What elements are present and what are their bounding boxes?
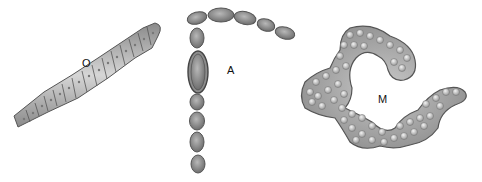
anabaena-filament <box>186 8 296 173</box>
oscillatoria-filament <box>14 23 160 127</box>
label-anabaena: A <box>227 64 235 76</box>
label-microcystis: M <box>378 93 387 105</box>
microcystis-colony <box>302 26 467 148</box>
label-oscillatoria: O <box>82 57 91 69</box>
cyanobacteria-diagram: O A <box>0 0 482 182</box>
